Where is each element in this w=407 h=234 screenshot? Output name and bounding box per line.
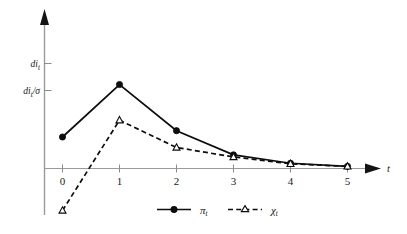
x-tick-label-4: 4 <box>288 175 294 187</box>
impulse-response-chart: dit dit/σ 0 1 2 3 4 5 t πt <box>0 0 407 234</box>
x-tick-label-0: 0 <box>60 175 66 187</box>
y-label-lower-suffix: /σ <box>32 86 41 96</box>
x-tick-label-3: 3 <box>231 175 237 187</box>
legend-marker-pi-filled-circle-icon <box>171 206 177 212</box>
data-point-marker-filled-circle-icon <box>116 81 122 87</box>
x-tick-label-5: 5 <box>345 175 351 187</box>
data-point-marker-filled-circle-icon <box>59 134 65 140</box>
chart-canvas: dit dit/σ 0 1 2 3 4 5 t πt <box>0 0 407 234</box>
data-point-marker-filled-circle-icon <box>173 128 179 134</box>
x-tick-label-1: 1 <box>117 175 123 187</box>
x-tick-label-2: 2 <box>174 175 180 187</box>
chart-background <box>0 0 407 234</box>
